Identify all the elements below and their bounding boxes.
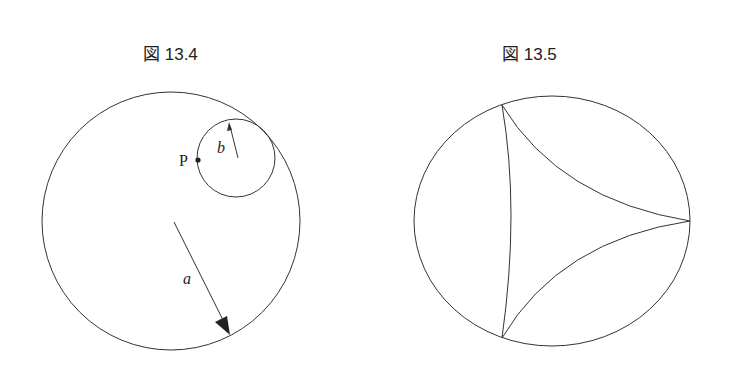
radius-b-line (230, 126, 238, 158)
radius-b-arrowhead (227, 122, 232, 131)
radius-a-line (174, 222, 226, 326)
outer-circle (414, 96, 690, 346)
diagram-canvas: P b a (0, 0, 729, 371)
point-p-dot (195, 157, 200, 162)
radius-a-label: a (183, 270, 191, 287)
large-circle (42, 92, 300, 350)
figure-13-4 (42, 92, 300, 350)
deltoid-curve (502, 105, 690, 338)
figure-13-5 (414, 96, 690, 346)
radius-a-arrowhead (215, 316, 230, 335)
radius-b-label: b (217, 139, 225, 156)
small-circle (197, 119, 275, 197)
point-p-label: P (179, 152, 188, 169)
